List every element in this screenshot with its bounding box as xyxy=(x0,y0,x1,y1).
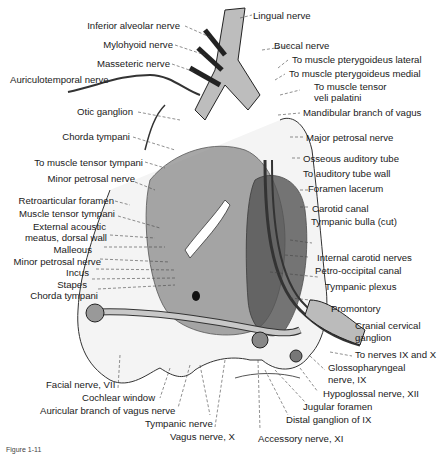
label-osseous-auditory-tube: Osseous auditory tube xyxy=(303,153,399,164)
label-carotid-canal: Carotid canal xyxy=(312,203,369,214)
label-tympanic-nerve: Tympanic nerve xyxy=(145,418,213,429)
label-to-muscle-tensor-veli-2: veli palatini xyxy=(314,92,361,103)
label-external-acoustic-meatus-2: meatus, dorsal wall xyxy=(25,232,107,243)
label-stapes: Stapes xyxy=(57,279,87,290)
label-otic-ganglion: Otic ganglion xyxy=(77,106,133,117)
jugular-foramen-arc xyxy=(235,374,300,379)
label-incus: Incus xyxy=(66,267,89,278)
label-auricular-branch-of-vagus: Auricular branch of vagus nerve xyxy=(40,405,175,416)
label-glossopharyngeal-nerve-2: nerve, IX xyxy=(328,374,366,385)
facial-nerve-cut xyxy=(86,304,104,322)
label-to-muscle-tensor-tympani: To muscle tensor tympani xyxy=(34,157,143,168)
label-promontory: Promontory xyxy=(331,303,381,314)
label-mylohyoid-nerve: Mylohyoid nerve xyxy=(103,39,173,50)
label-glossopharyngeal-nerve-1: Glossopharyngeal xyxy=(328,362,405,373)
label-chorda-tympani-lower: Chorda tympani xyxy=(30,290,98,301)
label-facial-nerve: Facial nerve, VII xyxy=(46,379,115,390)
label-minor-petrosal-nerve-lower: Minor petrosal nerve xyxy=(14,256,101,267)
label-auriculotemporal-nerve: Auriculotemporal nerve xyxy=(10,74,109,85)
label-to-nerves-ix-and-x: To nerves IX and X xyxy=(355,349,436,360)
mandibular-nerve xyxy=(195,8,260,120)
label-external-acoustic-meatus-1: External acoustic xyxy=(33,221,106,232)
figure-caption: Figure 1-11 xyxy=(6,446,41,453)
label-malleous: Malleous xyxy=(54,244,92,255)
label-cranial-cervical-ganglion-1: Cranial cervical xyxy=(355,320,421,331)
label-petro-occipital-canal: Petro-occipital canal xyxy=(315,265,401,276)
label-accessory-nerve: Accessory nerve, XI xyxy=(258,433,343,444)
label-jugular-foramen: Jugular foramen xyxy=(303,401,372,412)
label-chorda-tympani-upper: Chorda tympani xyxy=(62,131,130,142)
label-masseteric-nerve: Masseteric nerve xyxy=(97,58,170,69)
label-hypoglossal-nerve: Hypoglossal nerve, XII xyxy=(323,388,419,399)
label-to-auditory-tube-wall: To auditory tube wall xyxy=(303,168,390,179)
label-lingual-nerve: Lingual nerve xyxy=(253,10,311,21)
label-buccal-nerve: Buccal nerve xyxy=(274,40,329,51)
label-foramen-lacerum: Foramen lacerum xyxy=(308,183,383,194)
label-to-muscle-pterygoideus-medial: To muscle pterygoideus medial xyxy=(289,68,421,79)
label-internal-carotid-nerves: Internal carotid nerves xyxy=(317,252,412,263)
label-to-muscle-pterygoideus-lateral: To muscle pterygoideus lateral xyxy=(292,54,422,65)
label-muscle-tensor-tympani: Muscle tensor tympani xyxy=(19,208,115,219)
label-mandibular-branch-of-vagus: Mandibular branch of vagus xyxy=(303,107,421,118)
label-retroarticular-foramen: Retroarticular foramen xyxy=(19,195,114,206)
label-to-muscle-tensor-veli-1: To muscle tensor xyxy=(314,81,387,92)
glossopharyngeal-stump xyxy=(290,350,302,362)
label-cranial-cervical-ganglion-2: ganglion xyxy=(355,332,391,343)
chorda-tympani-path xyxy=(145,105,165,150)
label-tympanic-bulla-cut: Tympanic bulla (cut) xyxy=(311,216,397,227)
label-major-petrosal-nerve: Major petrosal nerve xyxy=(306,132,393,143)
label-tympanic-plexus: Tympanic plexus xyxy=(325,281,396,292)
label-inferior-alveolar-nerve: Inferior alveolar nerve xyxy=(87,20,180,31)
cochlear-window-shape xyxy=(192,291,200,301)
label-minor-petrosal-nerve-upper: Minor petrosal nerve xyxy=(48,173,135,184)
label-distal-ganglion-of-ix: Distal ganglion of IX xyxy=(286,414,371,425)
label-cochlear-window: Cochlear window xyxy=(82,392,155,403)
vagus-stump xyxy=(252,332,268,348)
label-vagus-nerve: Vagus nerve, X xyxy=(170,431,235,442)
